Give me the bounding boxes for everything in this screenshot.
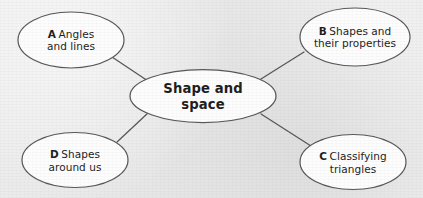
node-shape-group — [18, 8, 410, 190]
connector-center-a — [112, 57, 148, 81]
node-ellipse-d[interactable] — [22, 133, 128, 188]
connector-center-d — [117, 113, 148, 142]
node-ellipse-c[interactable] — [300, 135, 406, 190]
node-ellipse-a[interactable] — [18, 12, 124, 68]
connector-center-b — [261, 52, 304, 79]
connector-center-c — [261, 114, 311, 146]
node-ellipse-b[interactable] — [300, 8, 410, 66]
diagram-canvas — [0, 0, 423, 198]
mind-map-diagram: AAngles and lines BShapes and their prop… — [0, 0, 423, 198]
node-ellipse-center[interactable] — [130, 70, 276, 123]
